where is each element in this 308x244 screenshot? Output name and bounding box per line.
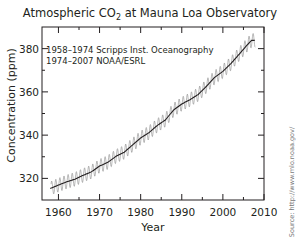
x-tick-label: 1960 — [45, 206, 72, 218]
source-note: Source: http://www.mlo.noaa.gov/ — [288, 127, 296, 237]
x-tick-label: 1980 — [127, 206, 154, 218]
legend-entry-scripps: 1958–1974 Scripps Inst. Oceanography — [46, 45, 213, 55]
x-tick-label: 1970 — [86, 206, 113, 218]
x-tick-label: 1990 — [168, 206, 195, 218]
x-tick-label: 2000 — [210, 206, 237, 218]
x-tick-label: 2010 — [251, 206, 278, 218]
y-tick-label: 380 — [19, 43, 39, 55]
co2-line-chart: 196019701980199020002010320340360380Year… — [0, 0, 308, 244]
y-tick-label: 320 — [19, 172, 39, 184]
y-tick-label: 360 — [19, 86, 39, 98]
y-axis-label: Concentration (ppm) — [5, 48, 18, 163]
x-axis-label: Year — [140, 221, 165, 234]
legend-entry-noaa: 1974–2007 NOAA/ESRL — [46, 56, 146, 66]
y-tick-label: 340 — [19, 129, 39, 141]
